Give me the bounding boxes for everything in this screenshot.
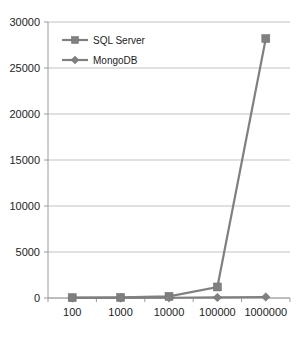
y-tick-label: 5000 (16, 246, 40, 258)
x-tick-label: 10000 (154, 306, 185, 318)
legend-label: SQL Server (93, 35, 146, 46)
x-tick-label: 1000000 (244, 306, 287, 318)
series-line (72, 39, 266, 298)
y-tick-label: 0 (34, 292, 40, 304)
y-axis-ticks (44, 22, 48, 298)
chart-container: 050001000015000200002500030000 100100010… (0, 0, 305, 340)
legend-marker (71, 56, 79, 64)
legend: SQL ServerMongoDB (62, 35, 146, 66)
y-tick-label: 20000 (9, 108, 40, 120)
series-1 (68, 35, 270, 302)
legend-marker (72, 37, 79, 44)
x-tick-label: 100 (63, 306, 81, 318)
x-tick-label: 100000 (199, 306, 236, 318)
data-point-marker (213, 283, 221, 291)
series-group (68, 35, 270, 303)
y-axis-tick-labels: 050001000015000200002500030000 (9, 16, 40, 304)
y-tick-label: 25000 (9, 62, 40, 74)
data-point-marker (262, 35, 270, 43)
legend-label: MongoDB (93, 55, 138, 66)
series-2 (68, 293, 270, 303)
x-tick-label: 1000 (108, 306, 132, 318)
gridlines (48, 22, 290, 298)
y-tick-label: 30000 (9, 16, 40, 28)
x-axis-tick-labels: 1001000100001000001000000 (63, 306, 287, 318)
y-tick-label: 10000 (9, 200, 40, 212)
data-point-marker (213, 293, 222, 302)
line-chart: 050001000015000200002500030000 100100010… (0, 0, 305, 340)
y-tick-label: 15000 (9, 154, 40, 166)
data-point-marker (261, 293, 270, 302)
